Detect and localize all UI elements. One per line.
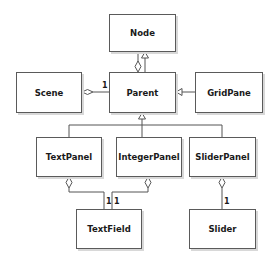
class-name: Slider (209, 224, 238, 234)
class-gridpane[interactable]: GridPane (196, 73, 266, 116)
class-name: GridPane (207, 88, 251, 98)
class-scene[interactable]: Scene (17, 73, 85, 116)
class-name: Parent (127, 88, 159, 98)
edge-node-parent-aggregation (135, 52, 141, 72)
class-textfield[interactable]: TextField (77, 210, 145, 252)
edge-scene-parent: 1 (82, 81, 109, 95)
class-slider[interactable]: Slider (190, 210, 259, 252)
multiplicity-label: 1 (106, 197, 112, 206)
edge-sliderpanel-slider: 1 (219, 177, 230, 209)
class-name: TextField (87, 224, 130, 234)
class-node[interactable]: Node (110, 15, 179, 55)
edge-gridpane-parent (176, 89, 195, 96)
multiplicity-label: 1 (102, 81, 108, 90)
class-name: Scene (35, 88, 64, 98)
edge-integerpanel-textfield: 1 (112, 177, 151, 209)
class-textpanel[interactable]: TextPanel (37, 138, 105, 180)
multiplicity-label: 1 (114, 197, 120, 206)
class-parent[interactable]: Parent (110, 73, 179, 116)
aggregation-diamond-icon (135, 61, 141, 72)
edge-panels-parent (69, 113, 222, 137)
class-name: IntegerPanel (118, 152, 180, 162)
class-sliderpanel[interactable]: SliderPanel (190, 138, 259, 180)
multiplicity-label: 1 (224, 197, 230, 206)
class-integerpanel[interactable]: IntegerPanel (117, 138, 185, 180)
uml-class-diagram: 1 1 1 1 Node Scene (0, 0, 274, 259)
class-name: TextPanel (46, 152, 93, 162)
edge-parent-node-generalization (142, 52, 149, 72)
edge-textpanel-textfield: 1 (66, 177, 112, 209)
class-name: Node (130, 28, 155, 38)
class-name: SliderPanel (195, 152, 250, 162)
